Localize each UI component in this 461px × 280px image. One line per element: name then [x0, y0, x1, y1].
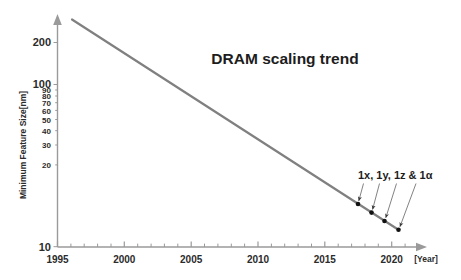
x-axis-unit-label: [Year]	[414, 254, 438, 264]
y-axis-title: Minimum Feature Size[nm]	[18, 91, 28, 199]
x-label-2010: 2010	[247, 254, 270, 265]
chart-title: DRAM scaling trend	[211, 50, 358, 67]
y-label-60: 60	[42, 107, 51, 116]
y-label-20: 20	[42, 161, 51, 170]
y-label-200: 200	[33, 36, 51, 48]
data-point-1x[interactable]	[356, 202, 361, 207]
x-label-2015: 2015	[314, 254, 337, 265]
data-point-1y[interactable]	[369, 210, 374, 215]
chart-background	[0, 0, 461, 280]
chart-canvas: 200 100 90 80 70 60 50 40 30 20 10 Minim…	[0, 0, 461, 280]
data-point-1alpha[interactable]	[396, 228, 401, 233]
data-point-1z[interactable]	[382, 219, 387, 224]
y-label-10: 10	[39, 241, 51, 253]
x-label-2020: 2020	[381, 254, 404, 265]
dram-scaling-chart: 200 100 90 80 70 60 50 40 30 20 10 Minim…	[0, 0, 461, 280]
annotation-label: 1x, 1y, 1z & 1α	[358, 169, 433, 181]
y-label-40: 40	[42, 127, 51, 136]
x-label-1995: 1995	[46, 254, 69, 265]
x-label-2005: 2005	[180, 254, 203, 265]
y-label-50: 50	[42, 116, 51, 125]
x-label-2000: 2000	[113, 254, 136, 265]
y-label-30: 30	[42, 141, 51, 150]
